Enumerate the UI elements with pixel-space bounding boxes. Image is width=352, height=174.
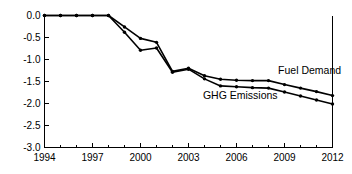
x-tick-label: 2006 (225, 152, 248, 163)
line-chart: 0.0-0.5-1.0-1.5-2.0-2.5-3.0 199419972000… (0, 0, 352, 174)
data-point (203, 77, 206, 80)
data-point (283, 83, 286, 86)
data-point (59, 14, 62, 17)
x-tick-label: 1994 (33, 152, 56, 163)
data-point (283, 90, 286, 93)
data-point (139, 49, 142, 52)
data-point (123, 31, 126, 34)
x-tick-label: 2012 (321, 152, 344, 163)
x-tick-label: 2000 (129, 152, 152, 163)
chart-series-lines (45, 16, 333, 104)
data-point (155, 41, 158, 44)
data-point (187, 67, 190, 70)
series-annotation-label: GHG Emissions (203, 89, 278, 101)
data-point (235, 78, 238, 81)
y-tick-label: 0.0 (27, 10, 41, 21)
data-point (123, 25, 126, 28)
y-tick-label: -1.0 (23, 54, 41, 65)
series-line-fuel-demand (45, 16, 333, 96)
y-tick-label: -2.5 (23, 120, 41, 131)
data-point (139, 37, 142, 40)
data-point (267, 79, 270, 82)
chart-container: 0.0-0.5-1.0-1.5-2.0-2.5-3.0 199419972000… (0, 0, 352, 174)
data-point (299, 94, 302, 97)
x-tick-label: 2009 (273, 152, 296, 163)
y-tick-label: -2.0 (23, 98, 41, 109)
data-point (171, 71, 174, 74)
y-tick-label: -0.5 (23, 32, 41, 43)
data-point (155, 46, 158, 49)
data-point (219, 78, 222, 81)
y-axis-tick-labels: 0.0-0.5-1.0-1.5-2.0-2.5-3.0 (23, 10, 41, 153)
data-point (331, 102, 334, 105)
x-tick-label: 1997 (81, 152, 104, 163)
series-line-ghg-emissions (45, 16, 333, 104)
data-point (203, 74, 206, 77)
series-annotation-label: Fuel Demand (278, 64, 341, 76)
chart-series-markers (43, 14, 334, 106)
chart-tick-marks (45, 16, 333, 148)
x-axis-tick-labels: 1994199720002003200620092012 (33, 152, 344, 163)
data-point (331, 94, 334, 97)
axis-frame (45, 16, 333, 148)
data-point (315, 90, 318, 93)
data-point (107, 14, 110, 17)
data-point (299, 86, 302, 89)
chart-axes (45, 16, 333, 148)
data-point (91, 14, 94, 17)
data-point (43, 14, 46, 17)
data-point (251, 79, 254, 82)
data-point (315, 98, 318, 101)
x-tick-label: 2003 (177, 152, 200, 163)
y-tick-label: -1.5 (23, 76, 41, 87)
data-point (75, 14, 78, 17)
data-point (219, 84, 222, 87)
